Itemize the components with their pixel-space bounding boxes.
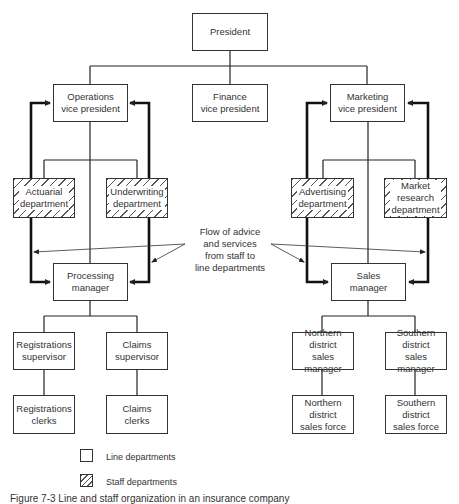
southern-manager-box: Southern district sales manager xyxy=(385,332,447,370)
actuarial-label: Actuarial department xyxy=(19,186,69,210)
advertising-box: Advertising department xyxy=(291,178,354,218)
northern-force-box: Northern district sales force xyxy=(292,395,354,434)
registrations-clerks-label: Registrations clerks xyxy=(16,403,71,427)
advice-flow-annotation: Flow of advice and services from staff t… xyxy=(180,226,280,274)
underwriting-box: Underwriting department xyxy=(106,178,168,218)
operations-vp-box: Operations vice president xyxy=(53,84,128,122)
registrations-clerks-box: Registrations clerks xyxy=(13,395,75,434)
northern-manager-label: Northern district sales manager xyxy=(293,327,353,375)
processing-manager-label: Processing manager xyxy=(67,270,114,294)
actuarial-box: Actuarial department xyxy=(13,178,75,218)
market-research-box: Market research department xyxy=(384,178,447,218)
staff-departments-legend-label: Staff departments xyxy=(106,477,177,487)
northern-force-label: Northern district sales force xyxy=(300,397,346,433)
figure-caption: Figure 7-3 Line and staff organization i… xyxy=(10,493,289,504)
claims-supervisor-label: Claims supervisor xyxy=(115,339,159,363)
sales-manager-label: Sales manager xyxy=(350,270,388,294)
southern-manager-label: Southern district sales manager xyxy=(386,327,446,375)
northern-manager-box: Northern district sales manager xyxy=(292,332,354,370)
southern-force-label: Southern district sales force xyxy=(393,397,439,433)
registrations-supervisor-box: Registrations supervisor xyxy=(13,332,75,370)
claims-clerks-label: Claims clerks xyxy=(122,403,151,427)
claims-supervisor-box: Claims supervisor xyxy=(106,332,168,370)
claims-clerks-box: Claims clerks xyxy=(106,395,168,434)
president-box: President xyxy=(192,13,268,51)
registrations-supervisor-label: Registrations supervisor xyxy=(16,339,71,363)
finance-vp-label: Finance vice president xyxy=(201,91,260,115)
marketing-vp-box: Marketing vice president xyxy=(330,84,405,122)
marketing-vp-label: Marketing vice president xyxy=(338,91,397,115)
sales-manager-box: Sales manager xyxy=(331,263,406,301)
finance-vp-box: Finance vice president xyxy=(192,84,268,122)
line-departments-legend-label: Line departments xyxy=(106,452,176,462)
line-department-swatch xyxy=(80,449,93,462)
operations-vp-label: Operations vice president xyxy=(61,91,120,115)
staff-department-swatch xyxy=(80,474,93,487)
processing-manager-box: Processing manager xyxy=(53,263,128,301)
southern-force-box: Southern district sales force xyxy=(385,395,447,434)
president-label: President xyxy=(210,26,250,38)
underwriting-label: Underwriting department xyxy=(109,186,164,210)
advertising-label: Advertising department xyxy=(297,186,347,210)
market-research-label: Market research department xyxy=(390,180,440,216)
